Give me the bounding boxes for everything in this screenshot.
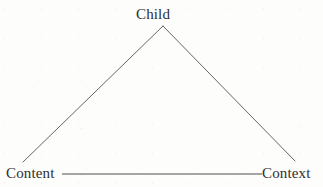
triangle-diagram-canvas (0, 0, 323, 187)
node-label-child: Child (136, 7, 170, 22)
edge-child-to-context (163, 26, 295, 161)
node-label-context: Context (262, 166, 311, 181)
edge-content-to-child (23, 26, 163, 162)
triangle-diagram-figure: Child Content Context (0, 0, 323, 187)
node-label-content: Content (6, 166, 55, 181)
